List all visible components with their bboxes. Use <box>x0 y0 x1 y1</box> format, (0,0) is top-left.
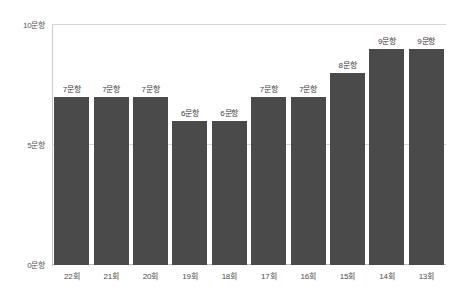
x-tick-label: 22회 <box>52 270 91 281</box>
x-tick-label: 16회 <box>288 270 327 281</box>
y-tick-label-0: 0문항 <box>27 259 45 270</box>
x-tick-label: 20회 <box>131 270 170 281</box>
bar-slot: 7문항 <box>94 25 129 265</box>
bar-slot: 7문항 <box>54 25 89 265</box>
bar[interactable] <box>330 73 365 265</box>
bar-slot: 7문항 <box>133 25 168 265</box>
bar[interactable] <box>94 97 129 265</box>
bar[interactable] <box>172 121 207 265</box>
bar-slot: 9문항 <box>369 25 404 265</box>
y-tick-label-10: 10문항 <box>23 19 45 30</box>
y-tick-label-5: 5문항 <box>27 139 45 150</box>
bar-value-label: 9문항 <box>417 35 435 46</box>
x-tick-label: 21회 <box>91 270 130 281</box>
x-tick-label: 17회 <box>249 270 288 281</box>
bar-slot: 7문항 <box>291 25 326 265</box>
x-tick-label: 14회 <box>367 270 406 281</box>
x-tick-label: 13회 <box>407 270 446 281</box>
bar-slot: 7문항 <box>251 25 286 265</box>
bar-value-label: 7문항 <box>63 83 81 94</box>
bar-slot: 6문항 <box>212 25 247 265</box>
bar-value-label: 7문항 <box>102 83 120 94</box>
bar-slot: 9문항 <box>409 25 444 265</box>
bar-value-label: 7문항 <box>260 83 278 94</box>
bar[interactable] <box>133 97 168 265</box>
x-tick-label: 18회 <box>210 270 249 281</box>
bar-value-label: 6문항 <box>220 107 238 118</box>
bar[interactable] <box>369 49 404 265</box>
bar-value-label: 9문항 <box>378 35 396 46</box>
bar[interactable] <box>409 49 444 265</box>
x-axis-labels-group: 22회21회20회19회18회17회16회15회14회13회 <box>52 270 446 290</box>
bar[interactable] <box>212 121 247 265</box>
bar-chart: 0문항5문항10문항 7문항7문항7문항6문항6문항7문항7문항8문항9문항9문… <box>0 0 465 297</box>
x-tick-label: 15회 <box>328 270 367 281</box>
bar[interactable] <box>54 97 89 265</box>
bar-value-label: 7문항 <box>142 83 160 94</box>
bar-slot: 8문항 <box>330 25 365 265</box>
bar-value-label: 8문항 <box>339 59 357 70</box>
plot-area: 0문항5문항10문항 7문항7문항7문항6문항6문항7문항7문항8문항9문항9문… <box>52 25 446 265</box>
bar-value-label: 7문항 <box>299 83 317 94</box>
bars-group: 7문항7문항7문항6문항6문항7문항7문항8문항9문항9문항 <box>52 25 446 265</box>
bar[interactable] <box>291 97 326 265</box>
x-tick-label: 19회 <box>170 270 209 281</box>
bar-slot: 6문항 <box>172 25 207 265</box>
bar-value-label: 6문항 <box>181 107 199 118</box>
bar[interactable] <box>251 97 286 265</box>
